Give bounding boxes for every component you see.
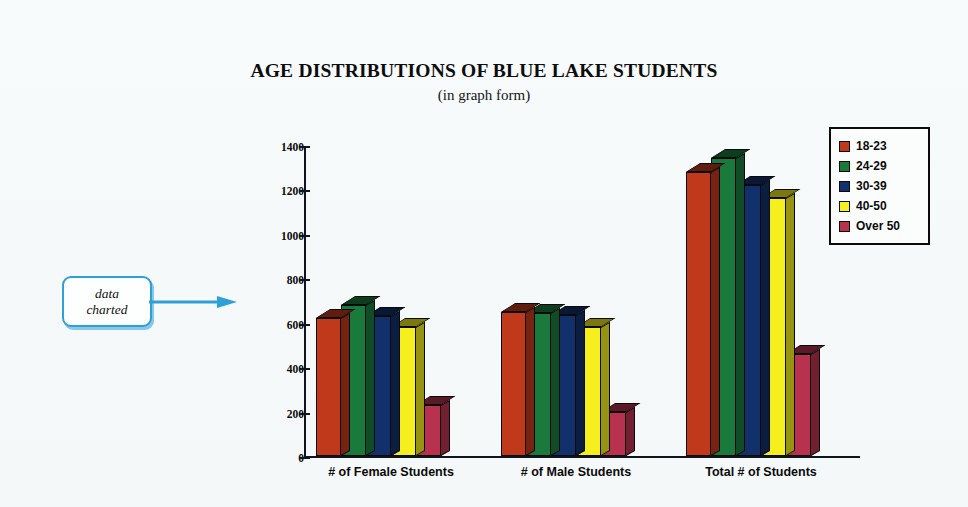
legend-color-swatch <box>839 221 850 232</box>
callout-data-charted: data charted <box>62 276 152 327</box>
callout-line-2: charted <box>86 302 127 318</box>
bar-front-face <box>316 318 341 456</box>
legend-item-label: 18-23 <box>856 139 887 153</box>
legend-color-swatch <box>839 161 850 172</box>
legend-item-label: 30-39 <box>856 179 887 193</box>
callout-line-1: data <box>95 286 119 302</box>
legend-item: 40-50 <box>839 196 922 216</box>
chart-title-block: AGE DISTRIBUTIONS OF BLUE LAKE STUDENTS … <box>0 60 968 104</box>
chart-legend: 18-2324-2930-3940-50Over 50 <box>829 127 930 245</box>
bar-side-face <box>786 193 795 456</box>
bar-side-face <box>736 153 745 456</box>
right-arrow-icon <box>149 296 237 308</box>
legend-color-swatch <box>839 201 850 212</box>
legend-item-label: 40-50 <box>856 199 887 213</box>
bar <box>686 172 711 456</box>
x-axis-category-label: # of Female Students <box>296 465 486 479</box>
bar-side-face <box>601 322 610 456</box>
legend-color-swatch <box>839 181 850 192</box>
legend-item: Over 50 <box>839 216 922 236</box>
bar-side-face <box>441 400 450 456</box>
bar-series-layer <box>306 145 860 458</box>
chart-subtitle: (in graph form) <box>0 87 968 104</box>
legend-item: 18-23 <box>839 136 922 156</box>
legend-item: 24-29 <box>839 156 922 176</box>
bar-side-face <box>526 306 535 456</box>
bar <box>316 318 341 456</box>
bar-side-face <box>811 349 820 456</box>
legend-color-swatch <box>839 141 850 152</box>
bar-side-face <box>551 308 560 456</box>
page-title: AGE DISTRIBUTIONS OF BLUE LAKE STUDENTS <box>0 60 968 82</box>
bar-side-face <box>576 310 585 456</box>
bar-front-face <box>501 312 526 456</box>
bar-side-face <box>366 300 375 456</box>
bar <box>501 312 526 456</box>
chart-plot-area: 0200400600800100012001400 # of Female St… <box>268 145 860 460</box>
bar-side-face <box>391 311 400 456</box>
x-axis-category-label: Total # of Students <box>666 465 856 479</box>
legend-item: 30-39 <box>839 176 922 196</box>
bar-side-face <box>341 313 350 456</box>
legend-item-label: Over 50 <box>856 219 900 233</box>
bar-side-face <box>416 322 425 456</box>
bar-side-face <box>761 180 770 456</box>
bar-side-face <box>626 406 635 456</box>
x-axis-category-label: # of Male Students <box>481 465 671 479</box>
legend-item-label: 24-29 <box>856 159 887 173</box>
bar-front-face <box>686 172 711 456</box>
bar-side-face <box>711 166 720 456</box>
